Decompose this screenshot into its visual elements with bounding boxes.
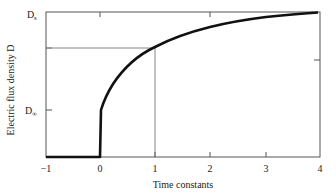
- x-tick-label: −1: [41, 163, 52, 174]
- dinf-subscript: ∞: [32, 110, 37, 118]
- y-axis-title: Electric flux density D: [5, 45, 16, 136]
- x-tick-label: 2: [208, 163, 213, 174]
- x-axis-title: Time constants: [153, 179, 214, 190]
- x-tick-label: 4: [318, 163, 323, 174]
- ds-subscript: s: [34, 14, 37, 22]
- x-tick-label: 1: [153, 163, 158, 174]
- data-curve: [46, 13, 318, 158]
- x-tick-label: 0: [98, 163, 103, 174]
- flux-density-chart: −1 0 1 2 3 4 Time constants Electric flu…: [0, 0, 336, 195]
- x-tick-label: 3: [264, 163, 269, 174]
